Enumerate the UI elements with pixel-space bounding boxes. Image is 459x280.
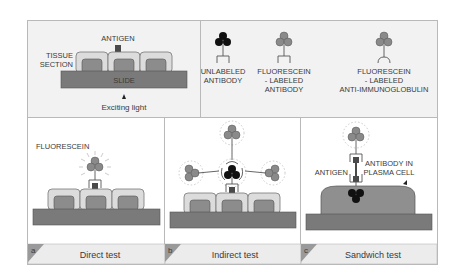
exciting-light-label: Exciting light [102,103,148,112]
panel-tag: a [31,246,36,255]
tissue-cells [48,189,144,210]
unlabeled-antibody-label-line2: ANTIBODY [204,76,242,85]
fluorescein-labeled-anti-immunoglobulin-icon [224,125,240,160]
fluorescein-labeled-anti-immunoglobulin-icon [185,165,219,181]
panel-tag: c [304,246,308,255]
panel-caption: Indirect test [212,250,259,260]
fluorescein-antibody-label-line3: ANTIBODY [265,85,303,94]
panel-caption: Direct test [80,250,121,260]
tissue-cells [184,193,280,214]
antibody-legend-panel: UNLABELED ANTIBODY FLUORESCEIN - LABELED… [201,21,437,118]
panel-sandwich-test: ANTIGEN ANTIBODY IN PLASMA CELL c Sandwi… [301,118,437,264]
fluorescein-labeled-antibody-icon [348,127,364,162]
slide-label: SLIDE [113,76,135,85]
fluorescein-labeled-antibody-icon [276,32,292,63]
antigen-marker [229,187,235,193]
unlabeled-antibody-label-line1: UNLABELED [201,67,246,76]
slide [170,212,296,228]
panel-direct-test: FLUORESCEIN [28,118,165,264]
pointer-arrow-icon [403,180,407,185]
fluorescein-labeled-anti-immunoglobulin-icon [245,165,279,181]
tissue-section-label-line2: SECTION [40,60,73,69]
anti-immunoglobulin-label-line1: FLUORESCEIN [357,67,410,76]
plasma-cell [321,186,415,215]
slide-legend-panel: ANTIGEN TISSUE SECTION SLIDE Exciting li… [28,21,201,118]
antigen-label: ANTIGEN [101,34,134,43]
panel-tag: b [168,246,173,255]
fluorescein-antibody-label-line1: FLUORESCEIN [257,67,310,76]
fluorescein-annotation: FLUORESCEIN [36,142,89,151]
plasma-cell-annotation-line1: ANTIBODY IN [365,159,413,168]
antigen-annotation: ANTIGEN [315,168,348,177]
antigen-marker [92,183,98,189]
sandwich-test-svg: ANTIGEN ANTIBODY IN PLASMA CELL c Sandwi… [301,118,437,264]
panel-caption: Sandwich test [345,250,402,260]
immunofluorescence-figure: ANTIGEN TISSUE SECTION SLIDE Exciting li… [27,20,438,265]
fluorescein-antibody-label-line2: - LABELED [265,76,304,85]
tissue-cells [76,52,172,73]
tissue-section-label-line1: TISSUE [46,51,73,60]
indirect-test-svg: b Indirect test [165,118,301,264]
direct-test-svg: FLUORESCEIN [28,118,165,264]
slide-legend-svg: ANTIGEN TISSUE SECTION SLIDE Exciting li… [28,21,201,118]
antigen-marker [353,176,359,182]
antigen-marker [115,45,121,52]
exciting-light-arrow-icon [122,94,126,99]
fluorescein-labeled-anti-immunoglobulin-icon [376,32,392,63]
plasma-cell-annotation-line2: PLASMA CELL [364,168,415,177]
slide [306,214,432,230]
anti-immunoglobulin-label-line3: ANTI-IMMUNOGLOBULIN [340,85,429,94]
unlabeled-antibody-icon [215,32,231,63]
antigen-marker [353,157,359,163]
antibody-legend-svg: UNLABELED ANTIBODY FLUORESCEIN - LABELED… [201,21,437,118]
anti-immunoglobulin-label-line2: - LABELED [365,76,404,85]
panel-indirect-test: b Indirect test [165,118,301,264]
slide [33,209,160,225]
